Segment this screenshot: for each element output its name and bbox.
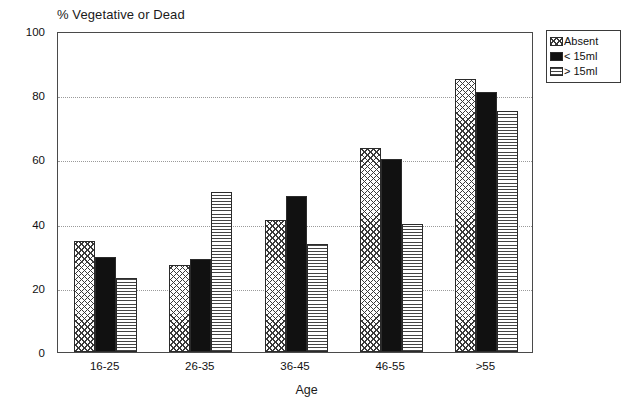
y-axis-tick-labels: 020406080100 xyxy=(0,32,51,353)
bar xyxy=(476,92,497,352)
legend-label: Absent xyxy=(564,36,598,47)
bar xyxy=(455,79,476,352)
y-axis-tick-label: 20 xyxy=(0,283,51,295)
bar-group xyxy=(169,33,232,352)
y-axis-tick-label: 40 xyxy=(0,219,51,231)
bar-group xyxy=(455,33,518,352)
legend-label: < 15ml xyxy=(564,51,597,62)
legend-swatch-icon xyxy=(550,52,563,61)
x-axis-tick-label: 26-35 xyxy=(185,360,214,372)
bar xyxy=(286,196,307,352)
x-axis-tick-label: 36-45 xyxy=(280,360,309,372)
legend-label: > 15ml xyxy=(564,66,597,77)
chart-title: % Vegetative or Dead xyxy=(57,7,185,22)
bar xyxy=(265,220,286,352)
legend-item: < 15ml xyxy=(550,49,620,64)
y-axis-tick-label: 100 xyxy=(0,26,51,38)
bar xyxy=(95,257,116,352)
bar-group xyxy=(74,33,137,352)
legend-item: Absent xyxy=(550,34,620,49)
bar xyxy=(360,148,381,352)
legend-swatch-icon xyxy=(550,37,563,46)
bar xyxy=(74,241,95,352)
bar-group xyxy=(360,33,423,352)
bar xyxy=(169,265,190,352)
x-axis-title: Age xyxy=(0,383,613,397)
x-axis-tick-label: 46-55 xyxy=(375,360,404,372)
bar xyxy=(381,159,402,352)
bar xyxy=(116,278,137,352)
bar-group xyxy=(265,33,328,352)
y-axis-tick-label: 60 xyxy=(0,154,51,166)
y-axis-tick-label: 80 xyxy=(0,90,51,102)
legend-item: > 15ml xyxy=(550,64,620,79)
legend-swatch-icon xyxy=(550,67,563,76)
bar xyxy=(307,244,328,352)
y-axis-tick-label: 0 xyxy=(0,347,51,359)
x-axis-tick-label: >55 xyxy=(476,360,496,372)
bar xyxy=(497,111,518,352)
chart-legend: Absent< 15ml> 15ml xyxy=(546,30,621,83)
bar xyxy=(211,192,232,353)
x-axis-tick-labels: 16-2526-3536-4546-55>55 xyxy=(57,360,533,378)
plot-area xyxy=(57,32,533,353)
plot-inner xyxy=(58,33,532,352)
x-axis-tick-label: 16-25 xyxy=(90,360,119,372)
bar xyxy=(402,224,423,352)
bar xyxy=(190,259,211,352)
